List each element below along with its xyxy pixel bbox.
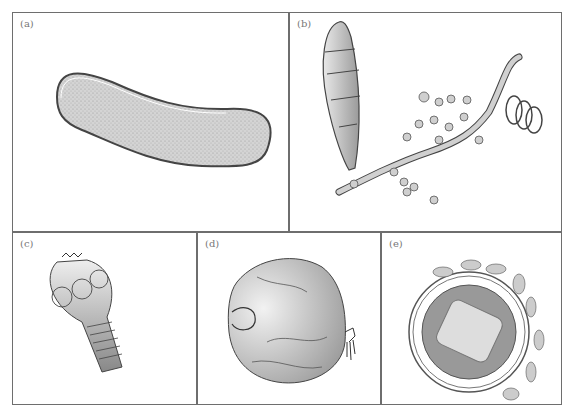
- panel-d: (d): [197, 232, 380, 405]
- fungus-illustration: [289, 12, 562, 231]
- organism-illustration: [197, 232, 380, 405]
- panel-a: (a): [12, 12, 288, 231]
- virus-illustration: [381, 232, 562, 405]
- panel-b: (b): [289, 12, 562, 231]
- bacterium-illustration: [12, 12, 288, 231]
- tapeworm-illustration: [12, 232, 196, 405]
- panel-e: (e): [381, 232, 562, 405]
- panel-c: (c): [12, 232, 196, 405]
